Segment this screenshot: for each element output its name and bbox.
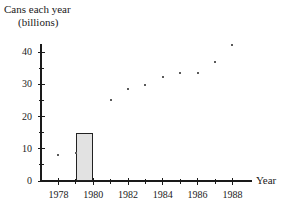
- x-axis-tick-major: [58, 178, 59, 185]
- x-axis-tick-minor: [180, 179, 181, 184]
- y-axis-tick-label: 20: [10, 112, 32, 122]
- data-point: [179, 72, 181, 74]
- x-axis-line: [41, 180, 252, 181]
- data-point: [75, 152, 77, 154]
- x-axis-tick-label: 1978: [43, 190, 73, 200]
- x-axis-tick-minor: [110, 179, 111, 184]
- data-point: [197, 72, 199, 74]
- y-axis-tick-label: 30: [10, 79, 32, 89]
- data-point: [144, 84, 146, 86]
- y-axis-tick-label: 40: [10, 47, 32, 57]
- y-axis-tick-major: [38, 181, 45, 182]
- x-axis-tick-label: 1982: [113, 190, 143, 200]
- y-axis-tick-major: [38, 116, 45, 117]
- highlight-bar-1979: [76, 133, 93, 181]
- data-point: [214, 61, 216, 63]
- x-axis-tick-major: [197, 178, 198, 185]
- x-axis-tick-label: 1986: [183, 190, 213, 200]
- y-axis-tick-label: 0: [10, 176, 32, 186]
- y-axis-tick-minor: [39, 100, 44, 101]
- x-axis-title: Year: [256, 174, 276, 186]
- x-axis-tick-minor: [145, 179, 146, 184]
- data-point: [231, 44, 233, 46]
- x-axis-tick-major: [232, 178, 233, 185]
- data-point: [110, 99, 112, 101]
- y-axis-tick-minor: [39, 68, 44, 69]
- y-axis-line: [40, 44, 41, 182]
- x-axis-tick-minor: [215, 179, 216, 184]
- data-point: [57, 154, 59, 156]
- y-axis-tick-major: [38, 52, 45, 53]
- y-axis-tick-major: [38, 84, 45, 85]
- plot-area: 010203040197819801982198419861988: [0, 0, 288, 213]
- x-axis-tick-major: [162, 178, 163, 185]
- data-point: [127, 88, 129, 90]
- y-axis-tick-minor: [39, 132, 44, 133]
- x-axis-tick-label: 1984: [148, 190, 178, 200]
- x-axis-tick-major: [128, 178, 129, 185]
- data-point: [162, 76, 164, 78]
- y-axis-tick-label: 10: [10, 144, 32, 154]
- x-axis-tick-label: 1988: [217, 190, 247, 200]
- y-axis-tick-minor: [39, 164, 44, 165]
- x-axis-tick-label: 1980: [78, 190, 108, 200]
- y-axis-tick-major: [38, 148, 45, 149]
- chart-figure: Cans each year (billions) 01020304019781…: [0, 0, 288, 213]
